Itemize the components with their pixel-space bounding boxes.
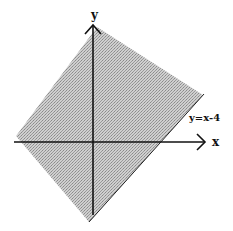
line-equation-label: y=x-4: [188, 112, 220, 123]
y-axis-label: y: [90, 8, 99, 22]
shaded-region: [16, 27, 203, 222]
x-axis-label: x: [212, 135, 220, 149]
coordinate-diagram: y x y=x-4: [0, 0, 233, 231]
